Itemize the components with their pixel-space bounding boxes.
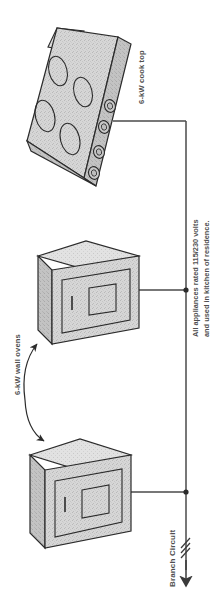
wall-oven-lower [30,439,131,548]
label-cook-top: 6-kW cook top [137,50,146,104]
wall-ovens-leader [24,344,44,441]
cook-top-appliance [27,28,131,186]
wall-oven-upper [38,241,139,344]
leader-arrow-to-lower-oven [25,400,44,441]
label-wall-ovens: 6-kW wall ovens [13,334,22,395]
note-line-2: and used in kitchen of residence. [201,177,212,337]
oven-upper-window [89,284,116,315]
oven-lower-window [82,485,109,518]
label-branch-circuit: Branch Circuit [168,530,177,587]
note-line-1: All appliances rated 115/230 volts [190,177,201,337]
note-appliance-rating: All appliances rated 115/230 volts and u… [190,177,212,337]
diagram-root: 6-kW cook top 6-kW wall ovens Branch Cir… [0,0,220,610]
leader-arrow-to-upper-oven [24,344,37,400]
oven-upper-side-face [38,256,52,344]
junction-dot-oven-upper [183,287,188,292]
oven-lower-side-face [30,455,45,548]
diagram-canvas [0,0,220,610]
junction-dot-oven-lower [183,489,188,494]
